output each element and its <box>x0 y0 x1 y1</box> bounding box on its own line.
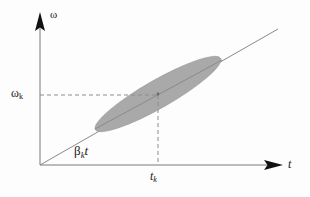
t-k-subscript: k <box>153 175 157 184</box>
beta-base: β <box>74 143 81 158</box>
beta-subscript: k <box>81 150 85 160</box>
omega-k-subscript: k <box>19 92 23 101</box>
omega-axis-label: ω <box>50 9 57 20</box>
operating-point-marker <box>157 93 160 96</box>
t-axis-label: t <box>288 158 291 170</box>
beta-suffix-t: t <box>85 143 89 158</box>
beta-k-t-label: βkt <box>74 144 88 157</box>
omega-k-base: ω <box>11 86 19 100</box>
t-k-label: tk <box>150 170 157 182</box>
diagram-canvas: ω t ωk tk βkt <box>0 0 310 197</box>
diagram-svg <box>0 0 310 197</box>
omega-k-label: ωk <box>11 87 23 99</box>
